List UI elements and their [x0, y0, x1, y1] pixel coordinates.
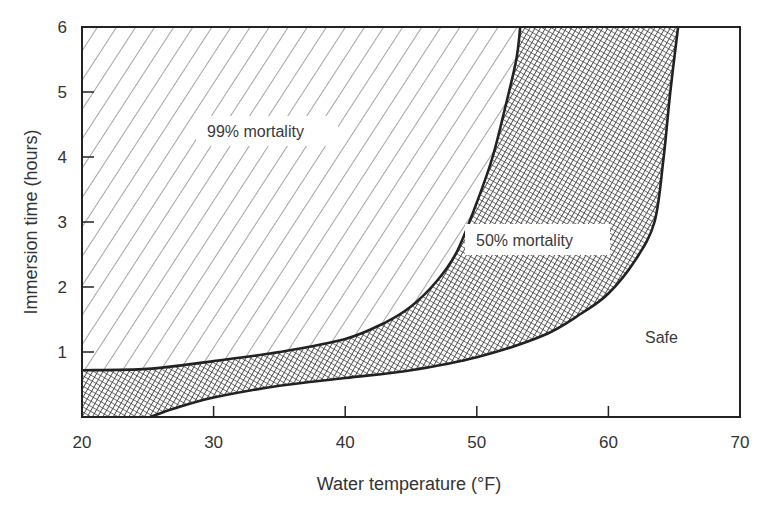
- x-tick-label: 30: [204, 433, 223, 452]
- mortality-chart: 203040506070123456 99% mortality 50% mor…: [0, 0, 770, 506]
- y-tick-label: 6: [58, 18, 67, 37]
- y-tick-label: 3: [58, 213, 67, 232]
- y-axis-title: Immersion time (hours): [21, 129, 41, 314]
- x-tick-label: 40: [336, 433, 355, 452]
- y-tick-label: 1: [58, 343, 67, 362]
- label-99-mortality: 99% mortality: [207, 123, 304, 140]
- plot-regions: [82, 27, 678, 417]
- y-tick-label: 4: [58, 148, 67, 167]
- label-safe: Safe: [645, 329, 678, 346]
- y-tick-label: 5: [58, 83, 67, 102]
- y-tick-label: 2: [58, 278, 67, 297]
- label-50-mortality: 50% mortality: [476, 232, 573, 249]
- x-tick-label: 20: [73, 433, 92, 452]
- x-tick-label: 50: [467, 433, 486, 452]
- x-tick-label: 60: [599, 433, 618, 452]
- x-axis-title: Water temperature (°F): [317, 474, 502, 494]
- x-tick-label: 70: [731, 433, 750, 452]
